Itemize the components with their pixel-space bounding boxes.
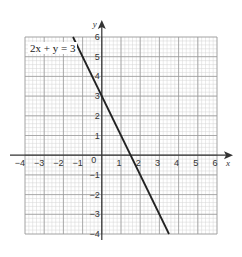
x-axis-label: x [225,158,230,168]
x-tick-label: 3 [155,158,160,168]
y-tick-label: 5 [95,52,100,62]
y-tick-label: 4 [95,71,100,81]
equation-label: 2x + y = 3 [28,42,77,54]
y-tick-label: −1 [90,170,100,180]
x-tick-label: 1 [116,158,121,168]
x-tick-label: −1 [72,158,82,168]
y-tick-label: −4 [90,229,100,239]
y-tick-label: 3 [95,91,100,101]
y-tick-label: −3 [90,209,100,219]
x-tick-label: 0 [91,155,96,165]
x-tick-label: 6 [212,158,217,168]
x-tick-label: 4 [174,158,179,168]
x-tick-label: −2 [53,158,63,168]
y-tick-label: 2 [95,111,100,121]
y-tick-label: 1 [95,131,100,141]
y-tick-label: 6 [95,32,100,42]
graph-plot: xy −4−3−2−10123456−4−3−2−1123456 [0,0,242,257]
y-tick-label: −2 [90,190,100,200]
x-tick-label: −3 [34,158,44,168]
x-tick-label: −4 [15,158,25,168]
y-axis-label: y [92,19,97,29]
x-tick-label: 5 [193,158,198,168]
